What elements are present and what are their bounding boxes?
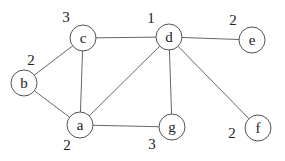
node-b: b xyxy=(11,70,37,96)
node-weight-b: 2 xyxy=(27,52,35,68)
node-label: f xyxy=(256,120,261,136)
node-weight-g: 3 xyxy=(148,136,156,152)
node-weight-d: 1 xyxy=(147,10,155,26)
node-weight-f: 2 xyxy=(228,125,236,141)
node-g: g xyxy=(159,114,185,140)
node-weight-a: 2 xyxy=(63,137,71,153)
node-label: e xyxy=(249,32,256,48)
node-e: e xyxy=(239,27,265,53)
node-label: a xyxy=(77,117,84,133)
edge-a-g xyxy=(93,125,159,126)
node-f: f xyxy=(245,115,271,141)
edge-b-c xyxy=(34,46,72,75)
edge-c-d xyxy=(96,37,156,38)
node-label: c xyxy=(80,30,87,46)
node-weight-e: 2 xyxy=(229,12,237,28)
graph-canvas: abcdefg 2231223 xyxy=(0,0,285,161)
node-label: b xyxy=(20,75,28,91)
edges xyxy=(34,37,249,127)
node-label: d xyxy=(165,29,173,45)
edge-a-d xyxy=(89,46,160,116)
node-a: a xyxy=(67,112,93,138)
edge-b-a xyxy=(34,91,69,117)
node-c: c xyxy=(70,25,96,51)
edge-d-f xyxy=(178,46,249,118)
node-weights: 2231223 xyxy=(27,9,237,153)
node-weight-c: 3 xyxy=(62,9,70,25)
edge-c-a xyxy=(80,51,82,112)
graph-diagram: abcdefg 2231223 xyxy=(0,0,285,161)
node-d: d xyxy=(156,24,182,50)
edge-d-e xyxy=(182,37,239,39)
nodes: abcdefg xyxy=(11,24,271,141)
node-label: g xyxy=(168,119,176,135)
edge-d-g xyxy=(169,50,171,114)
